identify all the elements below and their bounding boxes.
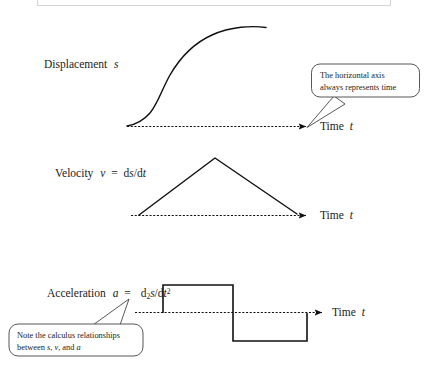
callout-calculus-line1: Note the calculus relationships (17, 330, 120, 342)
acceleration-axis-label: Time t (332, 306, 365, 319)
callout-horizontal-axis-text: The horizontal axis always represents ti… (320, 70, 396, 94)
velocity-axis-label-text: Time (320, 209, 344, 221)
callout-horizontal-axis-line1: The horizontal axis (320, 70, 396, 82)
velocity-label: Velocity v = ds/dt (55, 167, 146, 180)
acceleration-label-eq: = (124, 287, 131, 299)
velocity-axis-label-var: t (350, 209, 353, 221)
acceleration-label-prefix: Acceleration (47, 287, 106, 299)
callout-calculus-text: Note the calculus relationships between … (17, 330, 120, 354)
velocity-label-eq: = (111, 167, 118, 179)
velocity-label-var: v (100, 167, 105, 179)
figure-canvas: Displacement s Time t Velocity v = ds/dt… (0, 0, 442, 385)
callout-calculus-line2-pre: between (17, 343, 47, 352)
displacement-label-var: s (114, 58, 118, 70)
displacement-label: Displacement s (44, 58, 119, 71)
displacement-axis-label-var: t (350, 120, 353, 132)
displacement-curve (127, 27, 266, 126)
callout-calculus-line2: between s, v, and a (17, 342, 120, 354)
velocity-formula-den: t (143, 167, 146, 179)
displacement-axis-label: Time t (320, 120, 353, 133)
velocity-triangle-curve (139, 158, 297, 215)
callout-calculus-line2-a: a (77, 343, 81, 352)
acceleration-axis-label-var: t (362, 306, 365, 318)
velocity-panel (131, 158, 306, 216)
displacement-label-prefix: Displacement (44, 58, 107, 70)
acceleration-formula-slash: /d (155, 287, 164, 299)
displacement-axis-label-text: Time (320, 120, 344, 132)
acceleration-label: Acceleration a = d2s/dt2 (47, 287, 171, 301)
velocity-label-prefix: Velocity (55, 167, 93, 179)
velocity-formula-slash: /d (134, 167, 143, 179)
callout-horizontal-axis-line2: always represents time (320, 82, 396, 94)
displacement-panel (127, 27, 306, 127)
acceleration-label-var: a (113, 287, 119, 299)
velocity-axis-label: Time t (320, 209, 353, 222)
acceleration-formula-sup: 2 (167, 287, 171, 296)
callout-calculus-line2-mid2: , and (58, 343, 76, 352)
acceleration-axis-label-text: Time (332, 306, 356, 318)
